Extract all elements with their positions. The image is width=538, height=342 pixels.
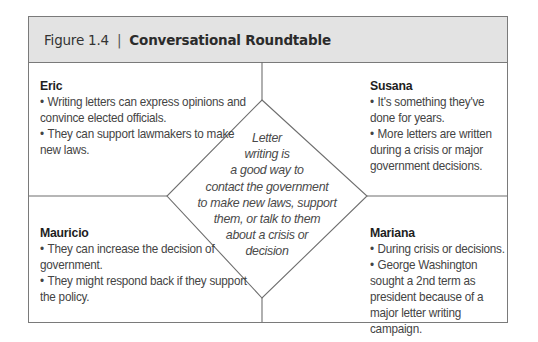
figure-header: Figure 1.4 | Conversational Roundtable (29, 17, 507, 63)
quadrant-mauricio: Mauricio They can increase the decision … (40, 225, 249, 305)
center-line: to make new laws, support (187, 195, 347, 211)
figure-number: Figure 1.4 (44, 32, 109, 48)
speaker-name: Eric (40, 78, 249, 94)
speaker-name: Mauricio (40, 225, 249, 241)
speaker-name: Susana (370, 78, 510, 94)
bullet-item: George Washington sought a 2nd term as p… (370, 257, 510, 337)
quadrant-mariana: Mariana During crisis or decisions. Geor… (370, 225, 510, 337)
quadrant-eric: Eric Writing letters can express opinion… (40, 78, 249, 158)
bullet-item: During crisis or decisions. (370, 241, 510, 257)
center-line: a good way to (187, 162, 347, 178)
bullet-item: They can support lawmakers to make new l… (40, 126, 249, 158)
header-separator: | (117, 32, 121, 48)
speaker-name: Mariana (370, 225, 510, 241)
bullet-item: They can increase the decision of govern… (40, 241, 249, 273)
center-line: contact the government (187, 179, 347, 195)
bullet-item: Writing letters can express opinions and… (40, 94, 249, 126)
bullet-item: It's something they've done for years. (370, 94, 510, 126)
quadrant-susana: Susana It's something they've done for y… (370, 78, 510, 174)
figure-title: Conversational Roundtable (129, 32, 331, 48)
bullet-item: More letters are written during a crisis… (370, 126, 510, 174)
bullet-item: They might respond back if they support … (40, 273, 249, 305)
